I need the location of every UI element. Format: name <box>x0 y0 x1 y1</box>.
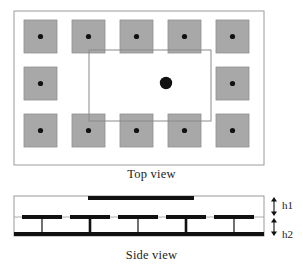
ebg-unit-cell <box>216 114 249 147</box>
ebg-unit-cell <box>24 67 57 100</box>
ebg-unit-cell <box>216 20 249 53</box>
ebg-cell-via-dot <box>86 34 91 39</box>
ebg-cell-via-dot <box>182 128 187 133</box>
side-view-ebg-cell <box>166 215 206 234</box>
ebg-unit-cell <box>72 20 105 53</box>
side-view-ebg-cell <box>214 215 254 234</box>
top-view-patch-outline <box>89 50 211 121</box>
ebg-cell-via-dot <box>230 34 235 39</box>
side-view-group <box>14 196 277 236</box>
ebg-cell-via-dot <box>38 81 43 86</box>
ebg-unit-cell <box>216 67 249 100</box>
side-view-caption: Side view <box>0 248 303 263</box>
ebg-unit-cell <box>24 114 57 147</box>
feed-probe-dot <box>160 77 172 89</box>
ebg-unit-cell <box>120 114 153 147</box>
dimension-arrow-head <box>271 212 277 217</box>
ebg-cell-via-dot <box>38 128 43 133</box>
side-view-top-patch <box>88 196 194 200</box>
side-view-dimension-arrows <box>271 197 277 236</box>
dimension-arrow-head <box>271 218 277 223</box>
top-view-group <box>14 11 264 165</box>
ebg-cell-via-dot <box>86 128 91 133</box>
dimension-arrow-h2 <box>271 218 277 236</box>
ebg-cell-via-dot <box>134 34 139 39</box>
ebg-unit-cell <box>24 20 57 53</box>
top-view-caption: Top view <box>0 167 303 182</box>
antenna-figure: Top view Side view h1 h2 <box>0 0 303 272</box>
ebg-unit-cell <box>120 20 153 53</box>
side-view-ebg-cell <box>22 215 62 234</box>
dimension-label-h2: h2 <box>282 228 293 240</box>
side-view-ground-plane <box>14 232 264 236</box>
ebg-unit-cell <box>168 114 201 147</box>
side-view-ebg-layer <box>22 215 254 234</box>
dimension-arrow-h1 <box>271 197 277 216</box>
dimension-arrow-head <box>271 197 277 202</box>
ebg-unit-cell-grid <box>24 20 249 147</box>
ebg-unit-cell <box>168 20 201 53</box>
dimension-label-h1: h1 <box>282 199 293 211</box>
dimension-arrow-head <box>271 232 277 237</box>
ebg-cell-via-dot <box>134 128 139 133</box>
side-view-ebg-cell <box>70 215 110 234</box>
ebg-cell-via-dot <box>230 128 235 133</box>
figure-svg <box>0 0 303 272</box>
ebg-cell-via-dot <box>38 34 43 39</box>
side-view-ebg-cell <box>118 215 158 234</box>
ebg-cell-via-dot <box>182 34 187 39</box>
ebg-cell-via-dot <box>230 81 235 86</box>
